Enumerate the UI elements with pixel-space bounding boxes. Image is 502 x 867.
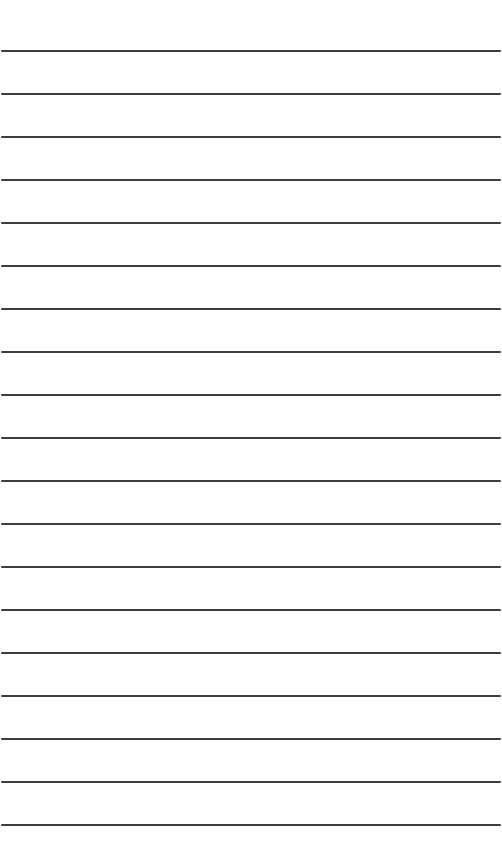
ruled-line	[1, 265, 501, 267]
ruled-line	[1, 136, 501, 138]
lined-paper-sheet	[0, 0, 502, 867]
ruled-line	[1, 480, 501, 482]
ruled-line	[1, 566, 501, 568]
ruled-line	[1, 50, 501, 52]
ruled-line	[1, 394, 501, 396]
ruled-line	[1, 437, 501, 439]
ruled-line	[1, 738, 501, 740]
ruled-line	[1, 781, 501, 783]
ruled-line	[1, 93, 501, 95]
ruled-line	[1, 351, 501, 353]
ruled-line	[1, 824, 501, 826]
ruled-line	[1, 523, 501, 525]
ruled-line	[1, 695, 501, 697]
ruled-line	[1, 222, 501, 224]
ruled-line	[1, 179, 501, 181]
ruled-line	[1, 609, 501, 611]
ruled-line	[1, 308, 501, 310]
ruled-line	[1, 652, 501, 654]
